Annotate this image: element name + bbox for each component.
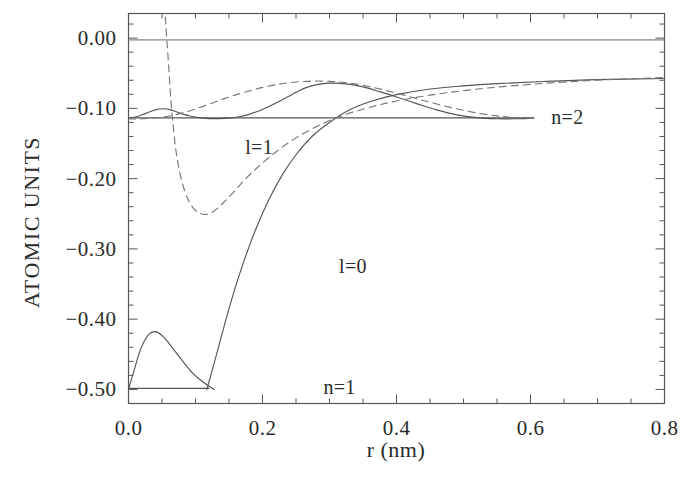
y-tick-label-4: −0.40 — [65, 307, 116, 332]
y-tick-label-5: −0.50 — [65, 377, 116, 402]
x-tick-label-1: 0.2 — [249, 416, 277, 441]
annotation-n-1: n=1 — [323, 376, 355, 399]
axes-frame — [129, 14, 665, 404]
y-tick-label-1: −0.10 — [65, 96, 116, 121]
axis-ticks — [129, 14, 665, 404]
y-axis-title: ATOMIC UNITS — [19, 102, 45, 342]
annotation-n-2: n=2 — [551, 105, 583, 128]
series-path-6 — [165, 17, 664, 214]
series-path-4 — [207, 79, 665, 390]
y-tick-label-3: −0.30 — [65, 236, 116, 261]
annotation-l-0: l=0 — [339, 255, 367, 278]
x-tick-label-0: 0.0 — [115, 416, 143, 441]
series-path-3 — [129, 332, 215, 390]
data-series — [129, 17, 665, 389]
annotation-l-1: l=1 — [245, 136, 273, 159]
y-tick-label-0: 0.00 — [78, 26, 117, 51]
y-tick-label-2: −0.20 — [65, 166, 116, 191]
x-tick-label-3: 0.6 — [517, 416, 545, 441]
series-path-5 — [129, 83, 534, 119]
series-path-7 — [129, 81, 534, 119]
figure-container: 0.00−0.10−0.20−0.30−0.40−0.50 0.00.20.40… — [0, 0, 696, 480]
x-tick-label-4: 0.8 — [651, 416, 679, 441]
x-axis-title: r (nm) — [367, 437, 426, 463]
